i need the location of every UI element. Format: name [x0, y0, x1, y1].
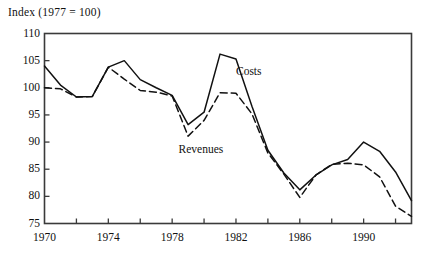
x-tick-label: 1978 — [161, 232, 184, 244]
x-tick-label: 1970 — [33, 232, 56, 244]
y-tick-label: 110 — [6, 28, 40, 40]
y-tick-label: 105 — [6, 55, 40, 67]
x-tick-label: 1990 — [352, 232, 375, 244]
x-tick-label: 1986 — [288, 232, 311, 244]
y-axis-tick-labels: 7580859095100105110 — [0, 0, 40, 262]
y-tick-label: 100 — [6, 82, 40, 94]
y-tick-label: 95 — [6, 109, 40, 121]
series-label-costs: Costs — [236, 66, 262, 78]
x-tick-label: 1982 — [224, 232, 247, 244]
chart-figure: Index (1977 = 100) 7580859095100105110 1… — [0, 0, 427, 262]
y-tick-label: 80 — [6, 191, 40, 203]
x-tick-label: 1974 — [97, 232, 120, 244]
y-tick-label: 75 — [6, 218, 40, 230]
plot-area — [0, 0, 427, 262]
series-label-revenues: Revenues — [179, 144, 224, 156]
y-tick-label: 85 — [6, 163, 40, 175]
y-tick-label: 90 — [6, 136, 40, 148]
plot-frame — [45, 34, 412, 224]
